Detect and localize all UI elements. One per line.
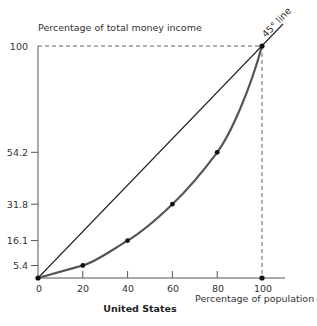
chart-title: United States (103, 303, 177, 314)
x-tick-0: 0 (36, 283, 42, 294)
line-45-annotation: 45° line (260, 5, 294, 39)
lorenz-chart: Percentage of total money income 100 54.… (0, 0, 317, 326)
x-tick-20: 20 (77, 283, 89, 294)
y-ticks (31, 152, 38, 265)
x-axis-label: Percentage of population (195, 293, 314, 304)
x-ticks (83, 271, 217, 278)
y-tick-16: 16.1 (7, 235, 28, 246)
y-tick-100: 100 (10, 41, 28, 52)
x-tick-40: 40 (122, 283, 134, 294)
y-axis-label: Percentage of total money income (38, 22, 202, 33)
equality-line (38, 24, 283, 278)
x-tick-60: 60 (167, 283, 179, 294)
y-tick-54: 54.2 (7, 147, 28, 158)
y-tick-31: 31.8 (7, 199, 28, 210)
y-tick-5: 5.4 (13, 260, 28, 271)
